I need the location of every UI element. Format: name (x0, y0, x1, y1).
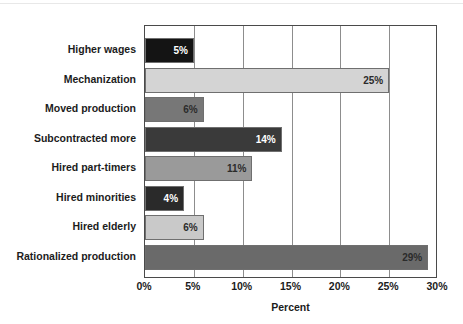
bar: 25% (145, 68, 389, 93)
category-label: Rationalized production (16, 244, 136, 269)
bar: 6% (145, 215, 204, 240)
bar-value-label: 25% (363, 75, 388, 86)
category-label: Subcontracted more (34, 126, 136, 151)
category-label: Higher wages (68, 37, 136, 62)
x-tick-label: 0% (136, 280, 151, 292)
bar-row: 6% (145, 97, 204, 122)
bar-value-label: 5% (173, 45, 192, 56)
category-label: Hired minorities (56, 185, 136, 210)
category-label: Moved production (45, 96, 136, 121)
x-axis-title: Percent (144, 301, 437, 313)
scan-top-rule (0, 3, 463, 4)
bar: 4% (145, 186, 184, 211)
bar-row: 4% (145, 186, 184, 211)
bar: 11% (145, 156, 252, 181)
bar: 29% (145, 245, 428, 270)
bar: 5% (145, 38, 194, 63)
bars-container: 5%25%6%14%11%4%6%29% (145, 26, 436, 277)
bar-value-label: 6% (183, 222, 202, 233)
x-tick-label: 10% (231, 280, 252, 292)
bar-value-label: 14% (256, 134, 281, 145)
bar-value-label: 4% (164, 193, 183, 204)
plot-area: 5%25%6%14%11%4%6%29% (144, 25, 437, 278)
x-tick-label: 30% (426, 280, 447, 292)
bar-row: 11% (145, 156, 252, 181)
bar-value-label: 29% (402, 252, 427, 263)
bar-row: 14% (145, 127, 282, 152)
bar-value-label: 6% (183, 104, 202, 115)
x-tick-label: 5% (185, 280, 200, 292)
bar-chart: Higher wagesMechanizationMoved productio… (0, 0, 463, 324)
category-label: Mechanization (64, 67, 136, 92)
bar: 14% (145, 127, 282, 152)
bar-row: 29% (145, 245, 428, 270)
bar-value-label: 11% (227, 163, 251, 174)
category-label: Hired part-timers (51, 155, 136, 180)
x-tick-label: 15% (280, 280, 301, 292)
x-axis-ticks: 0%5%10%15%20%25%30% (144, 280, 437, 296)
bar-row: 6% (145, 215, 204, 240)
bar: 6% (145, 97, 204, 122)
bar-row: 25% (145, 68, 389, 93)
x-tick-label: 25% (378, 280, 399, 292)
category-label: Hired elderly (72, 214, 136, 239)
category-axis-labels: Higher wagesMechanizationMoved productio… (0, 25, 140, 278)
bar-row: 5% (145, 38, 194, 63)
x-tick-label: 20% (329, 280, 350, 292)
